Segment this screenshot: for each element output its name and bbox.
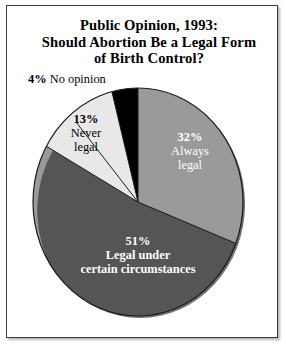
slice-label-never-legal: 13% Never legal [55, 112, 117, 155]
never-legal-line-2: legal [55, 140, 117, 154]
never-legal-percent: 13% [55, 112, 117, 126]
chart-page: Public Opinion, 1993: Should Abortion Be… [0, 0, 286, 346]
slice-label-legal-under-certain-circumstances: 51% Legal under certain circumstances [43, 234, 233, 277]
certain-line-2: certain circumstances [43, 262, 233, 276]
slice-label-always-legal: 32% Always legal [148, 130, 232, 173]
always-legal-percent: 32% [148, 130, 232, 144]
certain-percent: 51% [43, 234, 233, 248]
pie-chart-svg [0, 0, 286, 346]
always-legal-line-1: Always [148, 144, 232, 158]
always-legal-line-2: legal [148, 158, 232, 172]
never-legal-line-1: Never [55, 126, 117, 140]
pie-chart: 32% Always legal 51% Legal under certain… [0, 0, 286, 346]
certain-line-1: Legal under [43, 248, 233, 262]
